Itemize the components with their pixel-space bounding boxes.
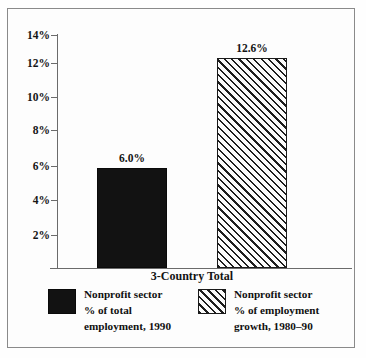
legend-label-employment-growth: Nonprofit sector % of employment growth,… — [234, 287, 354, 335]
legend-label-line-2: % of employment — [234, 303, 354, 319]
y-tick-label-4: 4% — [4, 195, 50, 207]
legend-label-line-3: growth, 1980–90 — [234, 319, 354, 335]
chart-legend: Nonprofit sector % of total employment, … — [48, 288, 348, 338]
bar-nonprofit-share-of-total-employment[interactable] — [97, 168, 167, 268]
legend-label-line-3: employment, 1990 — [84, 319, 196, 335]
y-tick-label-6: 6% — [4, 161, 50, 173]
bar-value-label-12-6: 12.6% — [217, 43, 287, 55]
y-tick-label-10: 10% — [4, 92, 50, 104]
plot-area: 14% 12% 10% 8% 6% 4% 2% 6.0% 12.6% 3-Cou… — [0, 0, 366, 358]
bar-value-label-6-0: 6.0% — [97, 153, 167, 165]
legend-swatch-solid-icon — [48, 289, 76, 314]
legend-label-total-employment: Nonprofit sector % of total employment, … — [84, 287, 196, 335]
y-tick-label-12: 12% — [4, 58, 50, 70]
y-tick-label-8: 8% — [4, 125, 50, 137]
y-tick-mark-6 — [51, 166, 58, 167]
x-axis-category-label: 3-Country Total — [97, 270, 287, 283]
legend-label-line-2: % of total — [84, 303, 196, 319]
y-tick-label-14: 14% — [4, 30, 50, 42]
figure-container: 14% 12% 10% 8% 6% 4% 2% 6.0% 12.6% 3-Cou… — [0, 0, 366, 358]
y-tick-mark-8 — [51, 130, 58, 131]
legend-label-line-1: Nonprofit sector — [84, 287, 196, 303]
legend-swatch-hatch-icon — [198, 289, 226, 314]
legend-label-line-1: Nonprofit sector — [234, 287, 354, 303]
y-tick-mark-12 — [51, 63, 58, 64]
y-tick-mark-10 — [51, 97, 58, 98]
bar-nonprofit-share-of-employment-growth[interactable] — [217, 58, 287, 268]
legend-item-total-employment[interactable]: Nonprofit sector % of total employment, … — [48, 288, 198, 338]
y-tick-mark-2 — [51, 235, 58, 236]
y-tick-mark-4 — [51, 200, 58, 201]
legend-item-employment-growth[interactable]: Nonprofit sector % of employment growth,… — [198, 288, 353, 338]
y-tick-mark-14 — [51, 35, 58, 36]
y-axis-line — [57, 34, 58, 268]
y-tick-label-2: 2% — [4, 230, 50, 242]
